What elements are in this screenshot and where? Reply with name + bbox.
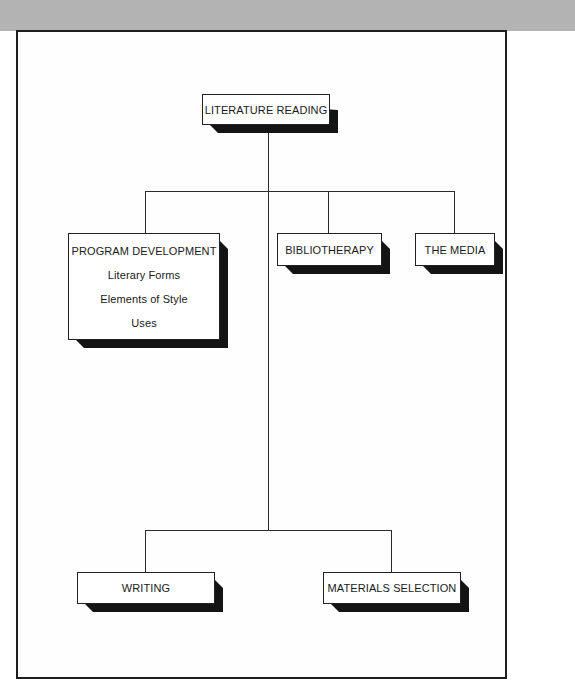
- connector-materials-selection: [391, 530, 392, 572]
- node-subitem: Literary Forms: [108, 269, 180, 281]
- node-label: MATERIALS SELECTION: [328, 582, 457, 594]
- node-writing: WRITING: [77, 572, 215, 604]
- node-label: BIBLIOTHERAPY: [285, 244, 374, 256]
- upper-horizontal-connector: [145, 191, 455, 192]
- connector-bibliotherapy: [328, 191, 329, 233]
- node-subitem: Elements of Style: [100, 293, 187, 305]
- node-label: PROGRAM DEVELOPMENT: [72, 245, 217, 257]
- node-subitem: Uses: [131, 317, 156, 329]
- page-number-fragment: [20, 687, 40, 693]
- node-label: WRITING: [122, 582, 170, 594]
- node-bibliotherapy: BIBLIOTHERAPY: [277, 233, 382, 266]
- trunk-connector: [268, 125, 269, 531]
- node-the-media: THE MEDIA: [415, 233, 495, 266]
- node-label: THE MEDIA: [425, 244, 486, 256]
- node-literature-reading: LITERATURE READING: [202, 94, 330, 125]
- node-materials-selection: MATERIALS SELECTION: [323, 572, 461, 604]
- connector-the-media: [454, 191, 455, 233]
- node-label: LITERATURE READING: [205, 104, 328, 116]
- node-program-development: PROGRAM DEVELOPMENT Literary Forms Eleme…: [68, 233, 220, 340]
- connector-writing: [145, 530, 146, 572]
- lower-horizontal-connector: [145, 530, 392, 531]
- header-band: [0, 0, 575, 31]
- connector-program-development: [145, 191, 146, 233]
